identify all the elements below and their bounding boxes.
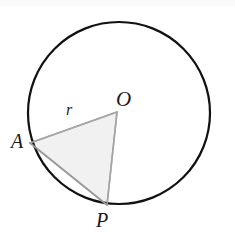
- geometry-figure: O A P r: [0, 0, 235, 236]
- point-label-P: P: [96, 210, 108, 230]
- circle-center-label-O: O: [116, 89, 131, 110]
- circle-diagram-canvas: [0, 0, 235, 236]
- point-label-A: A: [11, 131, 23, 151]
- radius-label-r: r: [66, 102, 72, 118]
- main-circle: [28, 22, 210, 204]
